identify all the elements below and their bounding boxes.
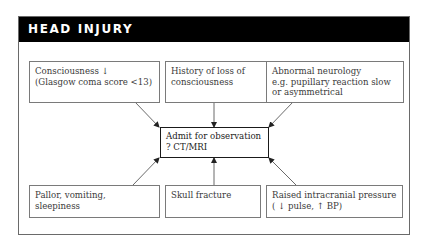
node-skull-fracture: Skull fracture	[165, 185, 261, 218]
diagram-title: HEAD INJURY	[28, 22, 133, 36]
node-text: Pallor, vomiting,	[35, 190, 154, 201]
node-text: History of loss of	[171, 66, 278, 77]
node-text: Raised intracranial pressure	[272, 190, 397, 201]
node-admit-for-observation: Admit for observation ? CT/MRI	[160, 127, 269, 158]
node-text: or asymmetrical	[272, 87, 398, 98]
node-text: e.g. pupillary reaction slow	[272, 77, 398, 88]
node-text: Abnormal neurology	[272, 66, 398, 77]
header-bar: HEAD INJURY	[19, 17, 409, 42]
node-text: sleepiness	[35, 201, 154, 212]
node-text: consciousness	[171, 77, 278, 88]
node-text: (Glasgow coma score <13)	[35, 77, 154, 88]
node-consciousness: Consciousness ↓ (Glasgow coma score <13)	[29, 61, 160, 103]
node-raised-intracranial-pressure: Raised intracranial pressure ( ↓ pulse, …	[266, 185, 403, 218]
node-text: Skull fracture	[171, 190, 255, 201]
node-text: ? CT/MRI	[166, 142, 263, 153]
node-text: Admit for observation	[166, 131, 263, 142]
node-text: Consciousness ↓	[35, 66, 154, 77]
node-pallor-vomiting: Pallor, vomiting, sleepiness	[29, 185, 160, 218]
node-abnormal-neurology: Abnormal neurology e.g. pupillary reacti…	[266, 61, 404, 103]
node-text: ( ↓ pulse, ↑ BP)	[272, 201, 397, 212]
